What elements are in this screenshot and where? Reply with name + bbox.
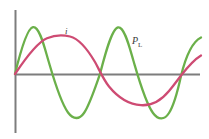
plot-svg xyxy=(0,0,209,139)
waveform-figure: i PL xyxy=(0,0,209,139)
current-curve-label: i xyxy=(65,27,68,36)
plot-background xyxy=(0,0,209,139)
power-curve-label: PL xyxy=(132,36,142,49)
power-subscript: L xyxy=(138,41,142,49)
